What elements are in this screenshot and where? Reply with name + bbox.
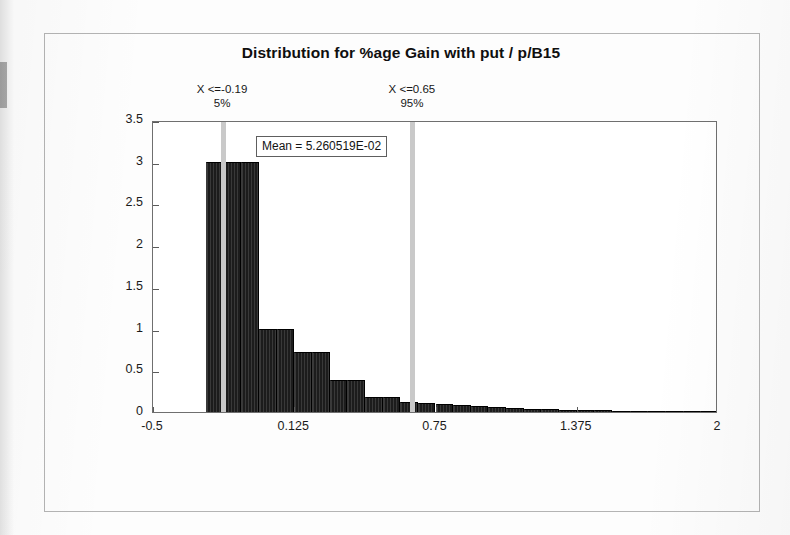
x-axis-tick-label: 1.375 [536,419,616,433]
histogram-bar [453,405,471,413]
percentile-marker-line [410,122,415,412]
percentile-marker-line [221,122,226,412]
scan-edge-artifact [0,62,7,108]
annotation-lower-percentile: X <=-0.19 5% [162,82,282,110]
y-axis-tick-label: 0.5 [83,362,143,376]
y-axis-tick-label: 1.5 [83,279,143,293]
mean-callout: Mean = 5.260519E-02 [256,136,387,157]
chart-title: Distribution for %age Gain with put / p/… [44,44,758,62]
x-axis-tick-label: 0.75 [395,419,475,433]
histogram-bar [241,162,259,412]
histogram-bar [383,397,401,412]
x-axis-tick [436,407,437,412]
y-axis-tick [153,247,159,248]
y-axis-tick [153,289,159,290]
histogram-bar [294,352,312,412]
histogram-bar [330,380,348,412]
annotation-upper-pct: 95% [352,96,472,110]
y-axis-tick [153,164,159,165]
plot-inner [153,122,716,412]
x-axis-tick [153,407,154,412]
histogram-bar [577,410,595,412]
histogram-bar [312,352,330,412]
y-axis-tick [153,331,159,332]
annotation-lower-pct: 5% [162,96,282,110]
x-axis-tick [294,407,295,412]
histogram-bar [488,407,506,412]
histogram-bar [471,406,489,412]
scanned-page: Distribution for %age Gain with put / p/… [0,0,790,535]
histogram-bar [665,411,683,412]
histogram-bar [436,404,454,412]
histogram-bar [683,411,701,412]
histogram-bar [259,329,277,412]
x-axis-tick-label: 2 [677,419,757,433]
annotation-upper-x: X <=0.65 [352,82,472,96]
histogram-bar [594,410,612,412]
histogram-bar [365,397,383,412]
histogram-bar [347,380,365,412]
y-axis-labels: 00.511.522.533.5 [0,121,152,413]
histogram-bar [612,411,630,413]
histogram-bar [224,162,242,412]
y-axis-tick-label: 3.5 [83,112,143,126]
histogram-bar [630,411,648,412]
histogram-bar [524,409,542,412]
histogram-bar [541,409,559,412]
annotation-lower-x: X <=-0.19 [162,82,282,96]
y-axis-tick [153,372,159,373]
histogram-bar [559,410,577,413]
y-axis-tick [153,122,159,123]
y-axis-tick-label: 0 [83,404,143,418]
x-axis-tick-label: 0.125 [253,419,333,433]
histogram-bar [647,411,665,412]
y-axis-tick-label: 2.5 [83,195,143,209]
y-axis-tick-label: 3 [83,154,143,168]
histogram-bar [277,329,295,412]
annotation-upper-percentile: X <=0.65 95% [352,82,472,110]
x-axis-tick-label: -0.5 [112,419,192,433]
x-axis-tick [577,407,578,412]
y-axis-tick-label: 1 [83,321,143,335]
histogram-bar [506,408,524,412]
histogram-bar [700,411,716,412]
histogram-bar [418,403,436,412]
y-axis-tick-label: 2 [83,237,143,251]
y-axis-tick [153,205,159,206]
plot-area [152,121,717,413]
